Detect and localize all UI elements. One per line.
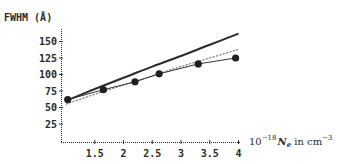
data-point-marker [156,70,163,77]
data-point-marker [131,78,138,85]
x-tick-label: 2 [120,148,126,159]
series-line-theory-dashed [66,49,239,104]
x-axis-title-exponent: −18 [262,134,277,142]
y-tick-label: 50 [45,102,57,113]
fwhm-vs-density-chart: FWHM (Å) 255075100125150 1.522.533.54 10… [0,0,356,164]
y-tick-label: 150 [39,36,57,47]
x-tick-label: 2.5 [143,148,161,159]
y-axis-title: FWHM (Å) [4,11,52,23]
x-tick-label: 4 [235,148,241,159]
data-point-marker [195,60,202,67]
series-line-experiment [68,58,236,100]
y-tick-label: 100 [39,69,57,80]
x-tick-label: 3.5 [201,148,219,159]
chart-canvas: FWHM (Å) 255075100125150 1.522.533.54 10… [0,0,356,164]
series-line-theory-solid [66,34,239,101]
data-point-marker [64,96,71,103]
data-point-marker [100,86,107,93]
series-layer [64,34,239,105]
x-axis-title-prefix: 10 [249,136,262,147]
y-tick-label: 125 [39,53,57,64]
data-point-marker [232,54,239,61]
x-axis-title: 10−18Ne in cm−3 [249,134,333,149]
y-tick-label: 25 [45,119,57,130]
y-tick-label: 75 [45,86,57,97]
x-tick-label: 3 [178,148,184,159]
y-axis-ticks: 255075100125150 [39,36,63,130]
x-tick-label: 1.5 [86,148,104,159]
x-axis-title-unit: in cm [291,136,323,147]
x-axis-title-unit-exponent: −3 [322,134,332,142]
